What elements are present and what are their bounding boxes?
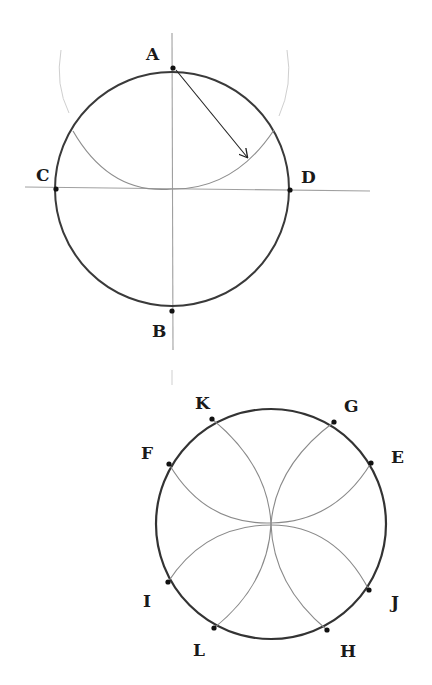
point-L xyxy=(211,625,216,630)
point-C xyxy=(53,186,58,191)
figure-top: A B C D xyxy=(25,33,370,350)
label-B: B xyxy=(152,321,166,341)
radius-arrow xyxy=(176,70,247,157)
point-I xyxy=(165,579,170,584)
label-K: K xyxy=(195,393,211,413)
diagram-canvas: A B C D K G E F I J L H xyxy=(0,0,432,685)
arc-from-A xyxy=(73,130,274,190)
label-L: L xyxy=(193,640,205,660)
label-E: E xyxy=(391,447,404,467)
point-A xyxy=(170,65,175,70)
point-B xyxy=(169,308,174,313)
point-J xyxy=(366,587,371,592)
horizontal-axis xyxy=(25,187,370,191)
label-A: A xyxy=(145,44,160,64)
figure-bottom: K G E F I J L H xyxy=(141,370,404,661)
point-D xyxy=(287,187,292,192)
label-C: C xyxy=(36,165,50,185)
point-H xyxy=(324,627,329,632)
point-G xyxy=(331,419,336,424)
label-H: H xyxy=(340,641,356,661)
point-F xyxy=(166,461,171,466)
label-I: I xyxy=(143,591,151,611)
faint-arc-left xyxy=(59,50,69,113)
arc-I-J xyxy=(168,525,369,590)
label-D: D xyxy=(301,167,316,187)
point-K xyxy=(209,416,214,421)
label-F: F xyxy=(141,443,153,463)
faint-arc-right xyxy=(279,50,289,116)
vertical-axis xyxy=(172,33,173,350)
point-E xyxy=(368,460,373,465)
label-J: J xyxy=(389,592,399,612)
label-G: G xyxy=(344,396,359,416)
